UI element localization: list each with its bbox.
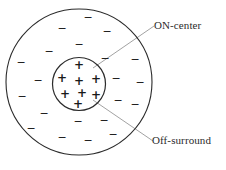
minus-sign: −: [57, 22, 66, 35]
minus-sign: −: [130, 53, 139, 66]
minus-sign: −: [33, 74, 42, 87]
minus-sign: −: [113, 94, 122, 107]
plus-sign: +: [60, 87, 70, 101]
minus-sign: −: [39, 107, 48, 120]
plus-sign: +: [57, 71, 67, 85]
minus-sign: −: [100, 52, 109, 65]
minus-sign: −: [108, 128, 117, 141]
off-surround-label: Off-surround: [152, 134, 211, 146]
minus-sign: −: [57, 131, 66, 144]
plus-sign: +: [91, 72, 101, 86]
minus-sign: −: [130, 98, 139, 111]
plus-sign: +: [91, 88, 101, 102]
minus-sign: −: [17, 90, 26, 103]
plus-signs-group: ++++++++: [57, 58, 101, 111]
minus-sign: −: [99, 114, 108, 127]
plus-sign: +: [73, 97, 83, 111]
minus-sign: −: [44, 45, 53, 58]
plus-sign: +: [74, 58, 84, 72]
minus-sign: −: [135, 76, 144, 89]
minus-sign: −: [73, 115, 82, 128]
minus-sign: −: [102, 25, 111, 38]
minus-sign: −: [83, 11, 92, 24]
minus-sign: −: [111, 72, 120, 85]
minus-sign: −: [83, 134, 92, 147]
minus-sign: −: [26, 122, 35, 135]
minus-sign: −: [74, 38, 83, 51]
on-center-label: ON-center: [154, 19, 201, 31]
minus-sign: −: [16, 56, 25, 69]
receptive-field-diagram: −−−−−−−−−−−−−−−−−−−−− ++++++++ ON-center…: [0, 0, 226, 170]
